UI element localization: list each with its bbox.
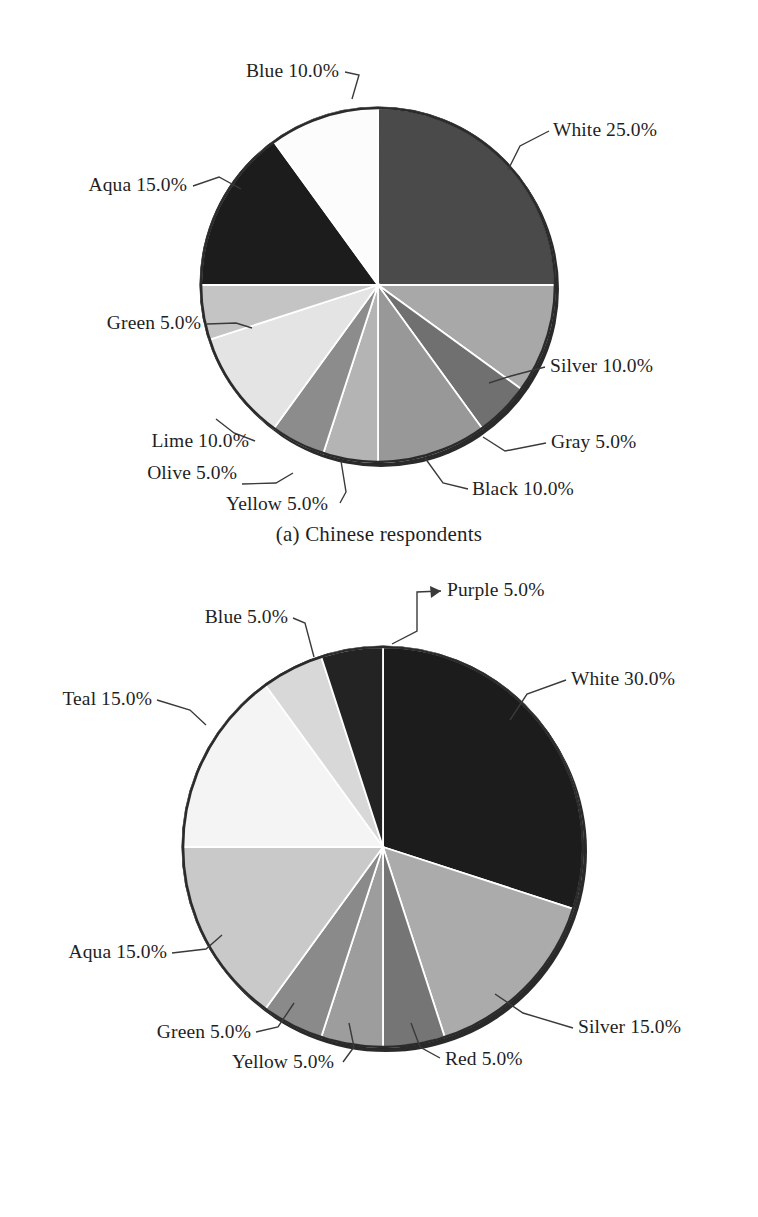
label-yellow-a: Yellow 5.0%	[226, 494, 328, 514]
leader-gray-a	[483, 437, 546, 451]
label-green-a: Green 5.0%	[107, 313, 201, 333]
label-teal-b: Teal 15.0%	[62, 689, 152, 709]
label-silver-a: Silver 10.0%	[550, 356, 653, 376]
label-white-b: White 30.0%	[571, 669, 675, 689]
label-green-b: Green 5.0%	[157, 1022, 251, 1042]
pie-b-slices	[183, 647, 583, 1047]
pie-a-slices	[201, 108, 555, 462]
pie-chart-panel-a: White 25.0% Silver 10.0% Gray 5.0% Black…	[0, 0, 758, 600]
caption-panel-a: (a) Chinese respondents	[0, 522, 758, 547]
pie-chart-panel-b: White 30.0% Silver 15.0% Red 5.0% Yellow…	[0, 560, 758, 1217]
leader-white-a	[508, 131, 549, 170]
leader-olive-a	[242, 473, 293, 484]
figure-two-pie-charts: White 25.0% Silver 10.0% Gray 5.0% Black…	[0, 0, 758, 1217]
pie-b-graphic	[0, 560, 758, 1217]
leader-purple-b	[392, 591, 441, 644]
leader-blue-b	[293, 618, 314, 657]
label-aqua-b: Aqua 15.0%	[69, 942, 167, 962]
label-white-a: White 25.0%	[553, 120, 657, 140]
label-lime-a: Lime 10.0%	[152, 431, 249, 451]
pie-a-graphic	[0, 0, 758, 600]
label-aqua-a: Aqua 15.0%	[89, 175, 187, 195]
label-purple-b: Purple 5.0%	[447, 580, 545, 600]
label-gray-a: Gray 5.0%	[551, 432, 636, 452]
label-olive-a: Olive 5.0%	[147, 463, 237, 483]
label-blue-a: Blue 10.0%	[246, 61, 339, 81]
label-yellow-b: Yellow 5.0%	[232, 1052, 334, 1072]
label-silver-b: Silver 15.0%	[578, 1017, 681, 1037]
leader-purple-b-arrowhead	[430, 586, 441, 598]
label-red-b: Red 5.0%	[445, 1049, 523, 1069]
leader-teal-b	[157, 700, 206, 725]
pie-slice-white	[378, 108, 555, 285]
label-blue-b: Blue 5.0%	[205, 607, 288, 627]
label-black-a: Black 10.0%	[472, 479, 574, 499]
leader-black-a	[425, 458, 468, 489]
leader-blue-a	[345, 72, 359, 99]
leader-yellow-a	[340, 461, 346, 503]
